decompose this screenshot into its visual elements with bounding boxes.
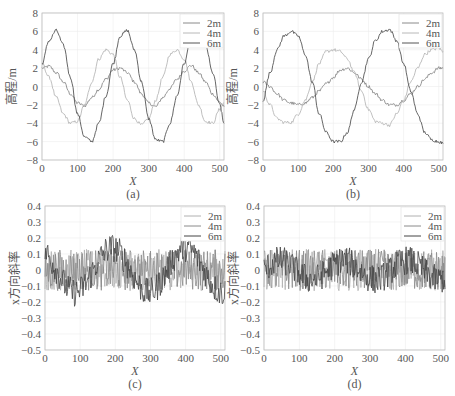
legend-label: 6m bbox=[207, 37, 222, 49]
x-tick-label: 400 bbox=[177, 352, 194, 364]
x-tick-label: 0 bbox=[39, 162, 45, 174]
series-line-4m bbox=[263, 47, 443, 127]
legend: 2m4m6m bbox=[181, 207, 224, 242]
legend-label: 6m bbox=[208, 230, 223, 242]
y-axis-label: 高程/m bbox=[4, 68, 19, 105]
x-tick-label: 0 bbox=[42, 352, 48, 364]
y-axis-label: x方向斜率 bbox=[7, 251, 22, 305]
y-tick-label: −0.3 bbox=[21, 312, 41, 324]
y-tick-label: −2 bbox=[26, 99, 38, 111]
x-tick-label: 300 bbox=[140, 162, 157, 174]
y-tick-label: 8 bbox=[33, 7, 39, 19]
y-tick-label: 6 bbox=[254, 25, 260, 37]
y-tick-label: 2 bbox=[254, 62, 260, 74]
x-tick-label: 100 bbox=[291, 352, 308, 364]
x-axis-label: X bbox=[350, 364, 359, 378]
panel-caption: (b) bbox=[346, 187, 360, 201]
y-tick-label: 6 bbox=[33, 25, 39, 37]
x-tick-label: 500 bbox=[213, 352, 230, 364]
figure: 0100200300400500−8−6−4−2024682m4m6mX(a)高… bbox=[0, 0, 455, 396]
y-tick-label: 0.2 bbox=[246, 232, 260, 244]
x-axis-label: X bbox=[128, 174, 137, 188]
y-tick-label: 0.3 bbox=[27, 216, 41, 228]
x-tick-label: 500 bbox=[431, 162, 448, 174]
y-tick-label: −6 bbox=[247, 136, 259, 148]
y-tick-label: −0.1 bbox=[240, 280, 260, 292]
y-tick-label: −4 bbox=[247, 117, 259, 129]
y-tick-label: −0.3 bbox=[240, 312, 260, 324]
y-tick-label: 0.1 bbox=[27, 248, 41, 260]
x-axis-label: X bbox=[130, 364, 139, 378]
y-tick-label: 2 bbox=[33, 62, 39, 74]
y-tick-label: 0 bbox=[255, 264, 261, 276]
y-tick-label: −0.4 bbox=[240, 328, 260, 340]
y-tick-label: 0.4 bbox=[27, 200, 41, 212]
panel-caption: (d) bbox=[348, 377, 362, 391]
x-tick-label: 500 bbox=[211, 162, 228, 174]
y-tick-label: −0.5 bbox=[21, 344, 41, 356]
x-tick-label: 300 bbox=[142, 352, 159, 364]
x-tick-label: 0 bbox=[260, 162, 266, 174]
y-tick-label: −0.4 bbox=[21, 328, 41, 340]
y-axis-label: x方向斜率 bbox=[226, 251, 241, 305]
y-tick-label: −6 bbox=[26, 136, 38, 148]
chart-panel-d: 0100200300400500−0.5−0.4−0.3−0.2−0.100.1… bbox=[226, 200, 450, 391]
chart-panel-b: 0100200300400500−8−6−4−2024682m4m6mX(b)高… bbox=[225, 7, 448, 201]
y-tick-label: −0.1 bbox=[21, 280, 41, 292]
y-tick-label: 0.1 bbox=[246, 248, 260, 260]
x-tick-label: 200 bbox=[105, 162, 122, 174]
legend-label: 6m bbox=[428, 230, 443, 242]
x-tick-label: 300 bbox=[362, 352, 379, 364]
y-tick-label: −0.2 bbox=[240, 296, 260, 308]
y-tick-label: −0.5 bbox=[240, 344, 260, 356]
y-tick-label: 4 bbox=[33, 44, 39, 56]
x-tick-label: 100 bbox=[69, 162, 86, 174]
x-tick-label: 300 bbox=[360, 162, 377, 174]
y-tick-label: −8 bbox=[26, 154, 38, 166]
y-tick-label: 0 bbox=[33, 81, 39, 93]
chart-panel-c: 0100200300400500−0.5−0.4−0.3−0.2−0.100.1… bbox=[7, 200, 230, 391]
x-tick-label: 500 bbox=[433, 352, 450, 364]
y-tick-label: 8 bbox=[254, 7, 260, 19]
y-tick-label: 0.3 bbox=[246, 216, 260, 228]
y-tick-label: −8 bbox=[247, 154, 259, 166]
y-tick-label: 0.4 bbox=[246, 200, 260, 212]
legend: 2m4m6m bbox=[401, 207, 444, 242]
x-tick-label: 200 bbox=[326, 352, 343, 364]
legend: 2m4m6m bbox=[399, 14, 442, 49]
x-tick-label: 400 bbox=[395, 162, 412, 174]
panel-caption: (a) bbox=[126, 187, 139, 201]
y-axis-label: 高程/m bbox=[225, 68, 240, 105]
x-axis-label: X bbox=[348, 174, 357, 188]
series-group bbox=[45, 234, 225, 306]
y-tick-label: 0.2 bbox=[27, 232, 41, 244]
x-tick-label: 200 bbox=[107, 352, 124, 364]
x-tick-label: 400 bbox=[176, 162, 193, 174]
y-tick-label: −4 bbox=[26, 117, 38, 129]
x-tick-label: 100 bbox=[290, 162, 307, 174]
x-tick-label: 400 bbox=[397, 352, 414, 364]
x-tick-label: 0 bbox=[261, 352, 267, 364]
y-tick-label: −0.2 bbox=[21, 296, 41, 308]
panel-caption: (c) bbox=[128, 377, 141, 391]
y-tick-label: 0 bbox=[254, 81, 260, 93]
y-tick-label: −2 bbox=[247, 99, 259, 111]
y-tick-label: 4 bbox=[254, 44, 260, 56]
x-tick-label: 200 bbox=[325, 162, 342, 174]
legend-label: 6m bbox=[426, 37, 441, 49]
x-tick-label: 100 bbox=[72, 352, 89, 364]
legend: 2m4m6m bbox=[180, 14, 223, 49]
chart-panel-a: 0100200300400500−8−6−4−2024682m4m6mX(a)高… bbox=[4, 7, 228, 201]
y-tick-label: 0 bbox=[36, 264, 42, 276]
